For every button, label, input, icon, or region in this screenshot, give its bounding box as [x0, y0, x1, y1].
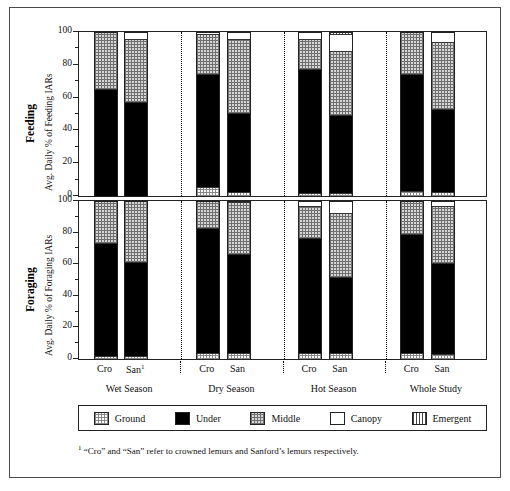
bar-segment-middle [401, 33, 423, 75]
bar-segment-middle [432, 43, 454, 111]
season-separator-tick [180, 361, 181, 373]
x-group-label-whole-study: Whole Study [385, 383, 487, 394]
bar-segment-under [330, 116, 352, 194]
bar-segment-middle [299, 40, 321, 70]
legend-swatch-emergent-icon [412, 412, 427, 425]
y-tick-label: 0 [67, 353, 72, 363]
y-tick-label: 40 [63, 290, 73, 300]
bar-segment-middle [432, 207, 454, 264]
x-group-label-dry-season: Dry Season [180, 383, 282, 394]
bar-segment-under [228, 114, 250, 193]
bar-segment-middle [299, 207, 321, 239]
stacked-bar [400, 201, 424, 359]
legend-label: Emergent [433, 413, 472, 424]
legend-swatch-middle-icon [250, 412, 265, 425]
bar-segment-under [125, 263, 147, 356]
bar-segment-under [330, 278, 352, 354]
season-separator [181, 201, 182, 359]
y-tick-label: 60 [63, 92, 73, 102]
stacked-bar [298, 32, 322, 196]
bar-segment-ground [197, 188, 219, 196]
bar-segment-middle [228, 203, 250, 255]
legend-label: Canopy [351, 413, 382, 424]
bar-segment-middle [95, 202, 117, 244]
x-group-label-wet-season: Wet Season [78, 383, 180, 394]
season-separator [386, 201, 387, 359]
bar-segment-middle [330, 52, 352, 116]
stacked-bar [227, 201, 251, 359]
stacked-bar [431, 201, 455, 359]
x-tick-label-dry-season-san: San [208, 363, 268, 374]
bar-segment-middle [330, 214, 352, 278]
bar-segment-ground [330, 194, 352, 196]
legend-label: Under [196, 413, 221, 424]
bar-segment-under [401, 75, 423, 192]
bar-segment-canopy [330, 202, 352, 214]
y-tick-label: 60 [63, 258, 73, 268]
bar-segment-ground [432, 355, 454, 359]
x-tick-label-hot-season-san: San [310, 363, 370, 374]
season-separator [386, 32, 387, 196]
y-tick-label: 80 [63, 59, 73, 69]
y-tick-label: 40 [63, 125, 73, 135]
chart-panel-feeding [78, 31, 487, 197]
legend-swatch-under-icon [175, 412, 190, 425]
footnote-text: “Cro” and “San” refer to crowned lemurs … [84, 446, 359, 456]
legend-item-ground: Ground [94, 412, 146, 425]
season-separator-tick [385, 361, 386, 373]
bar-segment-ground [401, 354, 423, 359]
chart-panel-foraging [78, 200, 487, 360]
bar-segment-ground [299, 354, 321, 359]
bar-segment-under [125, 103, 147, 196]
bar-segment-ground [125, 357, 147, 359]
bar-segment-middle [228, 40, 250, 114]
bar-segment-ground [432, 193, 454, 196]
stacked-bar [227, 32, 251, 196]
legend-label: Middle [271, 413, 300, 424]
bar-segment-ground [95, 357, 117, 359]
y-tick-label: 20 [63, 157, 73, 167]
bar-segment-canopy [432, 33, 454, 43]
stacked-bar [298, 201, 322, 359]
bar-segment-ground [197, 354, 219, 359]
bar-segment-under [197, 75, 219, 188]
season-separator [181, 32, 182, 196]
bar-segment-under [401, 235, 423, 354]
stacked-bar [124, 32, 148, 196]
bar-segment-middle [197, 35, 219, 75]
y-axis-foraging: 020406080100 [32, 200, 78, 360]
legend-swatch-ground-icon [94, 412, 109, 425]
stacked-bar [124, 201, 148, 359]
y-axis-feeding: 020406080100 [32, 31, 78, 197]
y-tick-label: 100 [58, 26, 72, 36]
bar-segment-middle [125, 202, 147, 263]
footnote-marker: 1 [78, 444, 82, 452]
legend-swatch-canopy-icon [330, 412, 345, 425]
y-tick-label: 100 [58, 195, 72, 205]
bar-segment-ground [401, 192, 423, 196]
bar-segment-under [95, 244, 117, 357]
bar-segment-under [299, 70, 321, 194]
legend-item-middle: Middle [250, 412, 300, 425]
bar-segment-middle [197, 202, 219, 229]
y-tick-label: 80 [63, 227, 73, 237]
bar-segment-under [432, 264, 454, 355]
stacked-bar [329, 201, 353, 359]
y-tick-label: 20 [63, 322, 73, 332]
legend-item-under: Under [175, 412, 221, 425]
figure-page: Feeding Avg. Daily % of Feeding IARs 020… [0, 0, 510, 491]
x-tick-label-wet-season-san: San1 [105, 363, 165, 375]
plot-area-feeding [79, 32, 486, 196]
bar-segment-under [299, 239, 321, 354]
stacked-bar [196, 201, 220, 359]
stacked-bar [329, 32, 353, 196]
bar-segment-middle [95, 33, 117, 90]
season-separator [284, 201, 285, 359]
legend-item-canopy: Canopy [330, 412, 382, 425]
bar-segment-canopy [330, 35, 352, 53]
season-separator [284, 32, 285, 196]
chart-legend: GroundUnderMiddleCanopyEmergent [78, 405, 487, 431]
bar-segment-under [95, 90, 117, 196]
figure-footnote: 1 “Cro” and “San” refer to crowned lemur… [78, 444, 359, 456]
bar-segment-ground [299, 194, 321, 196]
